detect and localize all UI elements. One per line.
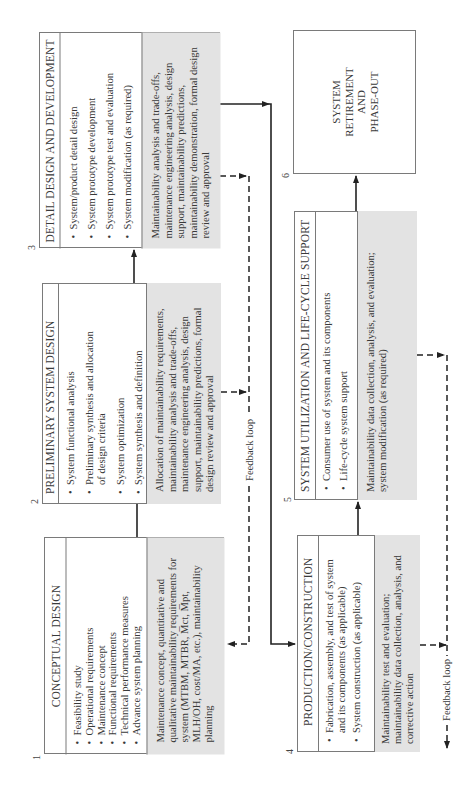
phase-title: PRODUCTION/CONSTRUCTION xyxy=(297,535,319,752)
mpt-symbol: M̅pt xyxy=(178,593,189,611)
phase-items: Consumer use of system and its component… xyxy=(316,211,357,500)
list-item: Fabrication, assembly, and test of syste… xyxy=(324,543,348,742)
list-item: Maintenance concept xyxy=(95,545,107,744)
feedback-loop-label-left: Feedback loop xyxy=(244,416,255,484)
phase-items: System/product detail design System prot… xyxy=(60,32,141,248)
list-item: Feasibility study xyxy=(71,545,83,744)
phase-box-production-construction: PRODUCTION/CONSTRUCTION Fabrication, ass… xyxy=(297,535,420,752)
phase-number-2: 2 xyxy=(29,499,40,504)
phase-box-system-utilization-and-life-cycle-support: SYSTEM UTILIZATION AND LIFE-CYCLE SUPPOR… xyxy=(294,211,417,500)
title-line: SYSTEM xyxy=(330,67,343,137)
list-item: Life-cycle system support xyxy=(338,219,350,490)
title-line: RETIREMENT xyxy=(342,67,355,137)
list-item: System optimization xyxy=(115,291,128,494)
list-item: System modification (as required) xyxy=(121,40,133,238)
list-item: Operational requirements xyxy=(83,545,95,744)
list-item: System prototype development xyxy=(85,40,97,238)
list-item: Functional requirements xyxy=(106,545,118,744)
maintainability-activities: Maintainability data collection, analysi… xyxy=(357,211,417,500)
phase-items: Feasibility study Operational requiremen… xyxy=(66,537,146,754)
phase-title: DETAIL DESIGN AND DEVELOPMENT xyxy=(39,32,60,248)
list-item: System prototype test and evaluation xyxy=(103,40,115,238)
phase-items: System functional analysis Preliminary s… xyxy=(59,283,146,504)
title-line: PHASE-OUT xyxy=(367,67,380,137)
phase-number-6: 6 xyxy=(280,173,291,178)
list-item: Advance system planning xyxy=(130,545,142,744)
phase-number-1: 1 xyxy=(31,755,42,760)
list-item: Consumer use of system and its component… xyxy=(321,219,333,490)
separator: , xyxy=(178,611,189,616)
phase-number-5: 5 xyxy=(282,497,293,502)
list-item: Preliminary synthesis and allocation of … xyxy=(84,291,109,494)
list-item: System/product detail design xyxy=(67,40,79,238)
maintainability-text: Maintenance concept, quantitative and qu… xyxy=(154,558,189,742)
phase-items: Fabrication, assembly, and test of syste… xyxy=(319,535,374,752)
phase-title: SYSTEM RETIREMENT AND PHASE-OUT xyxy=(330,67,380,137)
feedback-loop-label-right: Feedback loop xyxy=(441,656,452,724)
phase-box-detail-design-and-development: DETAIL DESIGN AND DEVELOPMENT System/pro… xyxy=(39,32,220,248)
mct-symbol: M̅ct xyxy=(178,616,189,633)
phase-title: PRELIMINARY SYSTEM DESIGN xyxy=(42,283,59,504)
list-item: System synthesis and definition xyxy=(133,291,146,494)
phase-number-4: 4 xyxy=(284,749,295,754)
maintainability-activities: Allocation of maintainability requiremen… xyxy=(146,283,221,504)
list-item: System functional analysis xyxy=(65,291,78,494)
phase-number-3: 3 xyxy=(26,245,37,250)
phase-box-preliminary-system-design: PRELIMINARY SYSTEM DESIGN System functio… xyxy=(42,283,221,504)
phase-box-system-retirement-and-phase-out: SYSTEM RETIREMENT AND PHASE-OUT xyxy=(293,30,416,174)
phase-title: SYSTEM UTILIZATION AND LIFE-CYCLE SUPPOR… xyxy=(294,211,316,500)
maintainability-activities: Maintenance concept, quantitative and qu… xyxy=(146,537,224,754)
phase-box-conceptual-design: CONCEPTUAL DESIGN Feasibility study Oper… xyxy=(44,537,224,754)
phase-title: CONCEPTUAL DESIGN xyxy=(44,537,66,754)
list-item: Technical performance measures xyxy=(118,545,130,744)
maintainability-activities: Maintainability analysis and trade-offs,… xyxy=(141,32,220,248)
list-item: System construction (as applicable) xyxy=(351,543,363,742)
maintainability-activities: Maintainability test and evaluation; mai… xyxy=(374,535,420,752)
arrow-trunk-to-4 xyxy=(269,104,295,644)
title-line: AND xyxy=(355,67,368,137)
